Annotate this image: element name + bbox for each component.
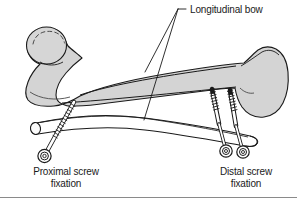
label-distal-screw-fixation: Distal screw fixation <box>198 166 294 189</box>
distal-screw-1-head <box>220 145 232 157</box>
label-distal-line-2: fixation <box>198 178 294 190</box>
leader-lines-longitudinal-bow <box>144 9 186 120</box>
figure-container: Longitudinal bow Proximal screw fixation… <box>0 0 297 198</box>
label-proximal-line-2: fixation <box>6 178 126 190</box>
proximal-screw-head <box>38 149 51 162</box>
femoral-head <box>27 27 67 64</box>
label-distal-line-1: Distal screw <box>198 166 294 178</box>
label-longitudinal-bow: Longitudinal bow <box>190 4 263 16</box>
label-proximal-line-1: Proximal screw <box>6 166 126 178</box>
distal-screw-1 <box>209 89 232 157</box>
femur-bone <box>26 27 289 117</box>
distal-screw-2-head <box>237 146 249 158</box>
label-proximal-screw-fixation: Proximal screw fixation <box>6 166 126 189</box>
